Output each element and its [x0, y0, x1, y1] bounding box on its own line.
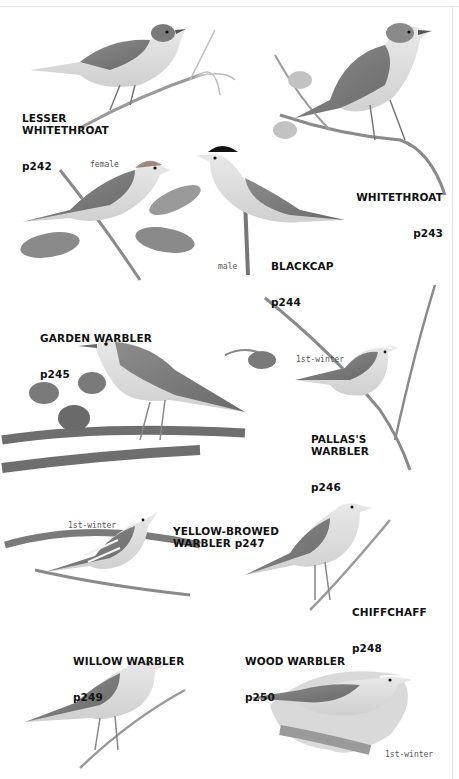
species-label-pallass-warbler: PALLAS'S WARBLER p246: [311, 409, 369, 517]
species-name: WHITETHROAT: [330, 191, 443, 203]
species-name: GARDEN WARBLER: [40, 332, 152, 344]
note-female: female: [90, 160, 119, 169]
species-name: BLACKCAP: [271, 260, 334, 272]
page-reference: p249: [73, 691, 184, 703]
species-label-yellow-browed-warbler: YELLOW-BROWED WARBLER p247: [173, 501, 279, 573]
note-1st-winter-yellow-browed: 1st-winter: [68, 521, 116, 530]
species-label-willow-warbler: WILLOW WARBLER p249: [73, 631, 184, 727]
species-name: LESSER WHITETHROAT: [22, 112, 109, 136]
species-name: WILLOW WARBLER: [73, 655, 184, 667]
page-reference: p250: [245, 691, 345, 703]
species-label-garden-warbler: GARDEN WARBLER p245: [40, 308, 152, 404]
note-male: male: [218, 262, 237, 271]
page-reference: p248: [352, 642, 427, 654]
note-1st-winter-wood: 1st-winter: [385, 750, 433, 759]
species-name: PALLAS'S WARBLER: [311, 433, 369, 457]
species-label-whitethroat: WHITETHROAT p243: [330, 167, 443, 263]
page-reference: p244: [271, 296, 334, 308]
page-reference: p245: [40, 368, 152, 380]
species-label-wood-warbler: WOOD WARBLER p250: [245, 631, 345, 727]
field-guide-plate: LESSER WHITETHROAT p242 WHITETHROAT p243…: [0, 0, 459, 779]
species-label-lesser-whitethroat: LESSER WHITETHROAT p242: [22, 88, 109, 196]
note-1st-winter-pallass: 1st-winter: [296, 355, 344, 364]
species-name: YELLOW-BROWED WARBLER p247: [173, 525, 279, 549]
page-reference: p243: [330, 227, 443, 239]
species-label-chiffchaff: CHIFFCHAFF p248: [352, 582, 427, 678]
species-name: CHIFFCHAFF: [352, 606, 427, 618]
species-label-blackcap: BLACKCAP p244: [271, 236, 334, 332]
species-name: WOOD WARBLER: [245, 655, 345, 667]
page-reference: p246: [311, 481, 369, 493]
